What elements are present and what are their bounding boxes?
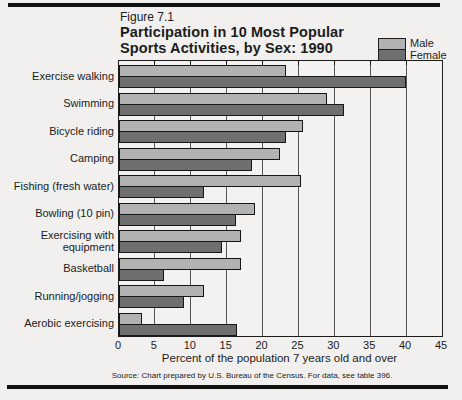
x-tick-45: 45 [435, 339, 447, 351]
category-label: Aerobic exercising [4, 310, 114, 338]
x-tick-20: 20 [255, 339, 267, 351]
figure-label: Figure 7.1 [120, 10, 174, 24]
figure-title-line2: Sports Activities, by Sex: 1990 [120, 40, 344, 56]
bar-female-8 [119, 296, 184, 308]
figure-title: Participation in 10 Most Popular Sports … [120, 24, 344, 56]
legend-swatches [378, 38, 406, 62]
category-label: Exercising with equipment [4, 227, 114, 255]
bar-female-1 [119, 104, 344, 116]
gridline-35 [370, 61, 371, 336]
x-tick-25: 25 [291, 339, 303, 351]
top-tick-25 [298, 61, 299, 65]
bar-female-2 [119, 131, 286, 143]
x-tick-10: 10 [184, 339, 196, 351]
bar-female-9 [119, 324, 237, 336]
bar-female-4 [119, 186, 204, 198]
gridline-30 [334, 61, 335, 336]
category-label: Fishing (fresh water) [4, 172, 114, 200]
x-axis-label: Percent of the population 7 years old an… [118, 352, 441, 364]
category-label: Bowling (10 pin) [4, 200, 114, 228]
top-tick-40 [406, 61, 407, 65]
x-tick-40: 40 [399, 339, 411, 351]
bar-female-3 [119, 159, 252, 171]
top-tick-30 [334, 61, 335, 65]
gridline-40 [406, 61, 407, 336]
plot-area [118, 60, 443, 337]
bottom-rule [7, 385, 448, 389]
x-tick-15: 15 [220, 339, 232, 351]
bar-female-7 [119, 269, 164, 281]
x-tick-5: 5 [151, 339, 157, 351]
bar-female-0 [119, 76, 406, 88]
category-label: Running/jogging [4, 282, 114, 310]
category-label: Camping [4, 145, 114, 173]
bar-female-6 [119, 241, 222, 253]
figure-page: Figure 7.1 Participation in 10 Most Popu… [0, 0, 462, 400]
category-label: Bicycle riding [4, 117, 114, 145]
x-tick-0: 0 [115, 339, 121, 351]
legend-male-label: Male [410, 37, 434, 49]
bar-female-5 [119, 214, 236, 226]
x-tick-35: 35 [363, 339, 375, 351]
source-note: Source: Chart prepared by U.S. Bureau of… [42, 371, 462, 380]
category-label: Exercise walking [4, 62, 114, 90]
top-tick-35 [370, 61, 371, 65]
legend-male-swatch [379, 39, 405, 50]
x-tick-30: 30 [327, 339, 339, 351]
category-label: Basketball [4, 255, 114, 283]
figure-title-line1: Participation in 10 Most Popular [120, 24, 344, 40]
category-label: Swimming [4, 90, 114, 118]
top-rule [8, 3, 440, 7]
